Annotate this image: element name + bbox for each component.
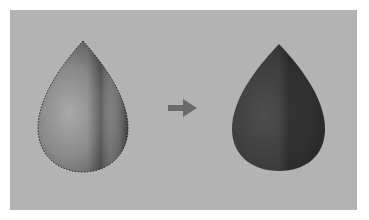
right-drop: [232, 44, 325, 171]
right-arrow-icon: [168, 99, 197, 117]
illustration-canvas: [10, 10, 357, 210]
illustration-panel: [10, 10, 357, 210]
left-drop: [38, 41, 128, 172]
